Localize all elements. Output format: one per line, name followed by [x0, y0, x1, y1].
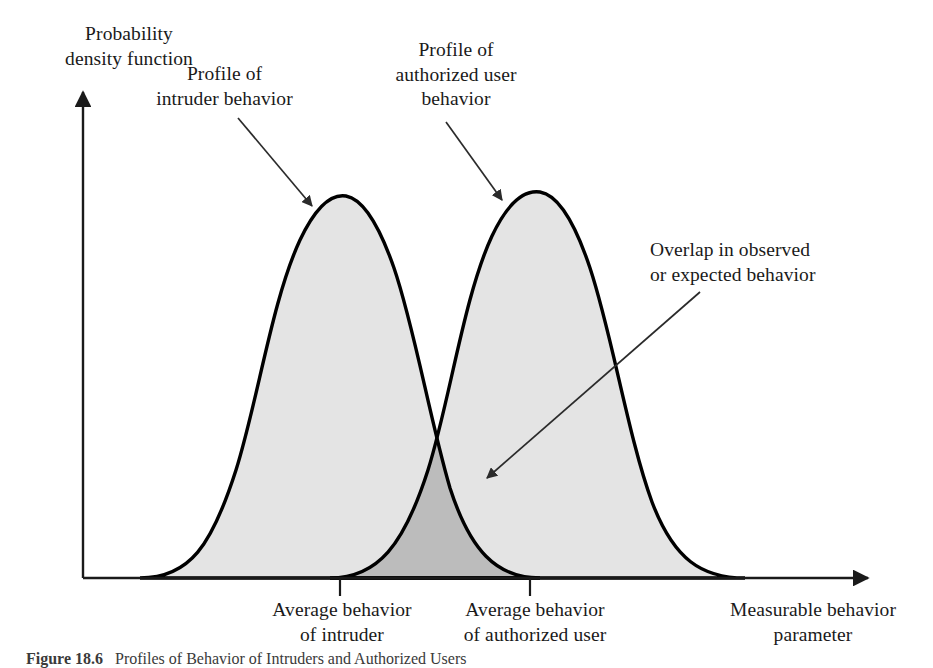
annotation-authorized-profile: Profile of authorized user behavior — [356, 38, 556, 112]
figure-caption: Figure 18.6 Profiles of Behavior of Intr… — [26, 650, 906, 668]
figure-caption-number: Figure 18.6 — [26, 650, 103, 667]
leader-authorized — [446, 122, 502, 200]
x-tick-label-authorized: Average behavior of authorized user — [432, 598, 638, 647]
x-axis-label: Measurable behavior parameter — [706, 598, 920, 647]
x-tick-label-intruder: Average behavior of intruder — [244, 598, 440, 647]
figure-caption-text: Profiles of Behavior of Intruders and Au… — [115, 650, 466, 667]
annotation-intruder-profile: Profile of intruder behavior — [112, 62, 337, 111]
leader-intruder — [238, 118, 312, 206]
annotation-overlap: Overlap in observed or expected behavior — [650, 238, 900, 287]
figure-container: Probability density function Profile of … — [0, 0, 933, 668]
